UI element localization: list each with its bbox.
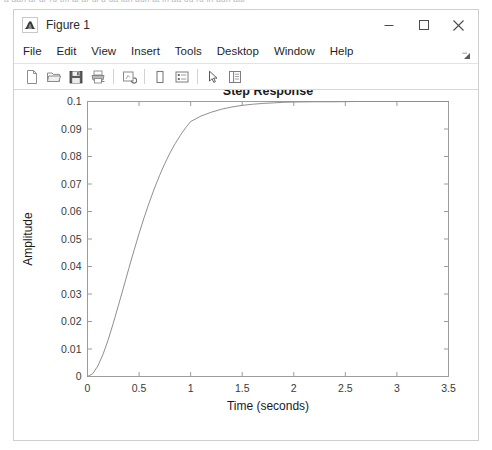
- x-tick-label: 1.5: [235, 382, 250, 394]
- y-tick-label: 0.1: [67, 95, 82, 107]
- page-top-text-sliver: a aan ar ar ru tm ai ar ui a ua ian aun …: [0, 0, 492, 7]
- y-tick-label: 0.04: [61, 260, 82, 272]
- insert-colorbar-button[interactable]: [149, 67, 170, 87]
- menu-bar: File Edit View Insert Tools Desktop Wind…: [14, 40, 478, 63]
- menu-item-edit[interactable]: Edit: [57, 46, 77, 58]
- maximize-icon: [418, 19, 430, 31]
- pointer-arrow-icon: [205, 69, 221, 85]
- y-axis-label: Amplitude: [21, 212, 35, 266]
- save-floppy-icon: [68, 69, 84, 85]
- new-document-icon: [24, 69, 40, 85]
- new-figure-button[interactable]: [21, 67, 42, 87]
- menu-item-desktop[interactable]: Desktop: [217, 46, 259, 58]
- menu-item-file[interactable]: File: [23, 46, 42, 58]
- toolbar: [14, 63, 478, 90]
- x-tick-label: 3: [394, 382, 400, 394]
- insert-legend-button[interactable]: [171, 67, 192, 87]
- menu-item-view[interactable]: View: [91, 46, 116, 58]
- menu-item-window[interactable]: Window: [274, 46, 315, 58]
- step-response-plot[interactable]: 00.010.020.030.040.050.060.070.080.090.1…: [14, 90, 478, 440]
- x-tick-label: 0: [85, 382, 91, 394]
- minimize-icon: [383, 19, 395, 31]
- toolbar-separator-3: [197, 69, 198, 84]
- y-tick-label: 0.09: [61, 123, 82, 135]
- save-figure-button[interactable]: [65, 67, 86, 87]
- show-plot-tools-button[interactable]: [224, 67, 245, 87]
- menu-overflow-arrow-icon[interactable]: [462, 47, 471, 56]
- edit-plot-button[interactable]: [202, 67, 223, 87]
- y-tick-label: 0: [76, 370, 82, 382]
- plot-title: Step Response: [223, 90, 313, 98]
- window-title: Figure 1: [46, 18, 90, 32]
- y-tick-label: 0.01: [61, 343, 82, 355]
- x-tick-label: 2.5: [338, 382, 353, 394]
- toolbar-separator-2: [144, 69, 145, 84]
- link-plot-icon: [121, 69, 137, 85]
- matlab-figure-icon: [22, 17, 38, 33]
- link-plot-button[interactable]: [118, 67, 139, 87]
- x-tick-label: 1: [188, 382, 194, 394]
- menu-item-insert[interactable]: Insert: [131, 46, 160, 58]
- y-tick-label: 0.08: [61, 150, 82, 162]
- y-tick-label: 0.07: [61, 178, 82, 190]
- page-top-text-sliver-label: a aan ar ar ru tm ai ar ui a ua ian aun …: [4, 0, 246, 4]
- y-axis-tick-labels: 00.010.020.030.040.050.060.070.080.090.1: [61, 95, 82, 382]
- y-tick-label: 0.06: [61, 205, 82, 217]
- close-icon: [452, 19, 465, 32]
- x-axis-label: Time (seconds): [227, 399, 309, 413]
- x-tick-label: 3.5: [441, 382, 456, 394]
- x-tick-label: 2: [291, 382, 297, 394]
- menu-item-help[interactable]: Help: [330, 46, 354, 58]
- figure-window: Figure 1 File Edit View Insert Tools Des…: [13, 9, 479, 441]
- toolbar-separator-1: [113, 69, 114, 84]
- x-tick-label: 0.5: [132, 382, 147, 394]
- x-axis-tick-labels: 00.511.522.533.5: [85, 382, 456, 394]
- print-figure-button[interactable]: [87, 67, 108, 87]
- colorbar-icon: [152, 69, 168, 85]
- minimize-button[interactable]: [374, 10, 404, 40]
- open-folder-icon: [46, 69, 62, 85]
- open-file-button[interactable]: [43, 67, 64, 87]
- legend-icon: [174, 69, 190, 85]
- y-tick-label: 0.03: [61, 288, 82, 300]
- maximize-button[interactable]: [409, 10, 439, 40]
- figure-canvas[interactable]: 00.010.020.030.040.050.060.070.080.090.1…: [14, 90, 478, 440]
- axes-box: [88, 102, 449, 377]
- plot-tools-icon: [227, 69, 243, 85]
- title-bar: Figure 1: [14, 10, 478, 40]
- close-button[interactable]: [443, 10, 473, 40]
- printer-icon: [90, 69, 106, 85]
- y-tick-label: 0.05: [61, 233, 82, 245]
- y-tick-label: 0.02: [61, 315, 82, 327]
- menu-item-tools[interactable]: Tools: [175, 46, 202, 58]
